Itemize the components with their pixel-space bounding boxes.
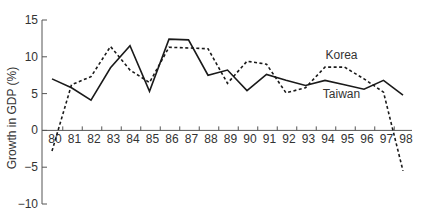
series-label-korea: Korea: [325, 48, 357, 62]
x-tick-label: 83: [107, 132, 121, 146]
x-axis: 80818283848586878889909192939495969798: [42, 126, 413, 146]
y-tick-label: −5: [24, 160, 38, 174]
x-tick-label: 93: [302, 132, 316, 146]
series-line-korea: [52, 46, 403, 170]
y-tick-label: 0: [31, 123, 38, 137]
x-tick-label: 92: [282, 132, 296, 146]
y-tick-label: −10: [18, 197, 39, 211]
series-label-taiwan: Taiwan: [323, 87, 360, 101]
y-tick-label: 10: [25, 50, 39, 64]
series-labels: KoreaTaiwan: [323, 48, 360, 101]
y-axis-title: Growth in GDP (%): [5, 67, 19, 169]
x-tick-label: 89: [224, 132, 238, 146]
x-tick-label: 86: [165, 132, 179, 146]
x-tick-label: 84: [126, 132, 140, 146]
x-tick-label: 87: [185, 132, 199, 146]
x-tick-label: 96: [360, 132, 374, 146]
y-axis: 151050−5−10: [18, 13, 47, 211]
x-tick-label: 98: [399, 132, 413, 146]
x-tick-label: 82: [87, 132, 101, 146]
x-tick-label: 91: [263, 132, 277, 146]
x-tick-label: 81: [68, 132, 82, 146]
y-tick-label: 5: [31, 87, 38, 101]
x-tick-label: 94: [321, 132, 335, 146]
gdp-growth-chart: 151050−5−10 8081828384858687888990919293…: [0, 0, 426, 216]
x-tick-label: 85: [146, 132, 160, 146]
x-tick-label: 88: [204, 132, 218, 146]
y-tick-label: 15: [25, 13, 39, 27]
x-tick-label: 97: [380, 132, 394, 146]
x-tick-label: 95: [341, 132, 355, 146]
x-tick-label: 90: [243, 132, 257, 146]
